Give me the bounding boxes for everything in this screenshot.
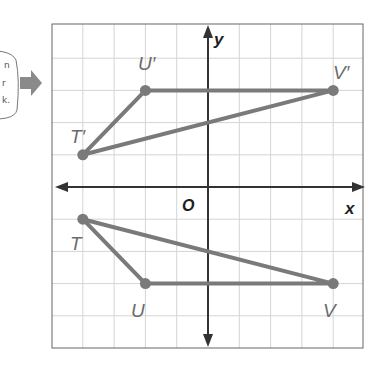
- y-axis-up-arrow-icon: [203, 25, 213, 38]
- side-note-line-1: n: [4, 60, 10, 70]
- origin-label: O: [182, 197, 195, 214]
- axes: [55, 25, 365, 347]
- vertex-point: [77, 214, 88, 225]
- vertex-point: [328, 85, 339, 96]
- side-note-line-2: r: [2, 78, 6, 88]
- vertex-label-v: V: [323, 300, 338, 321]
- vertex-point: [140, 278, 151, 289]
- vertex-point: [140, 85, 151, 96]
- vertex-label-u-prime: U′: [138, 53, 157, 74]
- side-note: n r k.: [0, 51, 42, 119]
- vertex-label-u: U: [131, 300, 145, 321]
- coordinate-plane-figure: n r k. y x O U′ V′ T′ T U V: [0, 0, 385, 367]
- vertex-label-v-prime: V′: [333, 62, 351, 83]
- vertex-point: [328, 278, 339, 289]
- vertex-point: [77, 149, 88, 160]
- vertex-label-t: T: [70, 233, 83, 254]
- y-axis-down-arrow-icon: [203, 334, 213, 347]
- side-note-line-3: k.: [2, 95, 10, 105]
- y-axis-label: y: [213, 30, 225, 49]
- x-axis-left-arrow-icon: [55, 182, 68, 192]
- x-axis-label: x: [344, 199, 356, 218]
- pointer-arrow-icon: [20, 70, 42, 96]
- vertex-label-t-prime: T′: [70, 126, 87, 147]
